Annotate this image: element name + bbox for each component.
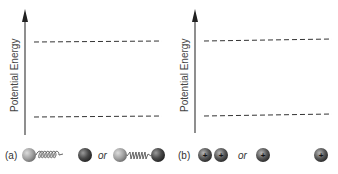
positive-charge: + [214,148,228,162]
or-label: or [238,150,248,161]
arrow-head-icon [192,9,198,22]
or-label: or [98,150,108,161]
atom-dark [151,148,165,162]
atom-light [22,148,36,162]
panel-a: Potential Energy (a) or [5,9,165,162]
dashed-level-upper [204,39,332,41]
plus-icon: + [203,151,208,160]
panel-label: (b) [178,150,190,161]
atom-dark [78,148,92,162]
axis-label: Potential Energy [179,39,190,112]
arrow-head-icon [22,9,28,22]
panel-b: Potential Energy (b) + + or + + [178,9,332,162]
atom-light [113,148,127,162]
dashed-level-lower [34,116,162,117]
energy-diagram: Potential Energy (a) or Potential Energy… [0,0,338,174]
axis-label: Potential Energy [9,39,20,112]
dashed-level-upper [34,41,162,42]
positive-charge: + [198,148,212,162]
positive-charge: + [314,148,328,162]
spring-stretched [36,151,63,158]
plus-icon: + [319,151,324,160]
panel-label: (a) [5,150,17,161]
spring-compressed [127,152,151,159]
dashed-level-lower [204,114,332,116]
plus-icon: + [261,151,266,160]
plus-icon: + [219,151,224,160]
positive-charge: + [256,148,270,162]
